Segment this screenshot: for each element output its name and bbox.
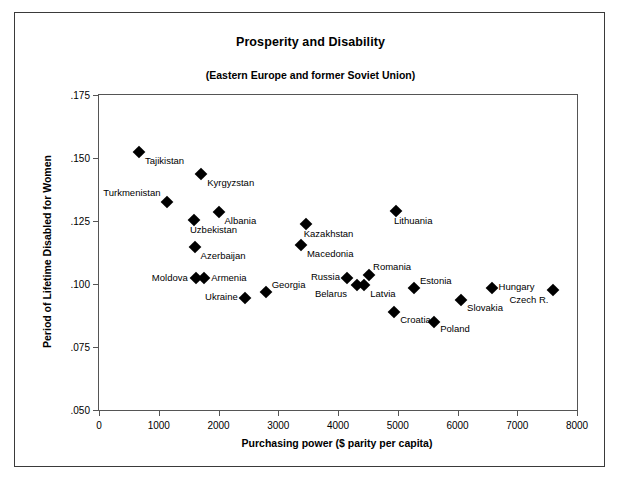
data-point-label: Lithuania xyxy=(394,216,433,226)
data-point[interactable] xyxy=(160,196,173,209)
x-tick-label: 2000 xyxy=(207,420,229,431)
y-tick-mark xyxy=(93,347,99,348)
data-point-label: Tajikistan xyxy=(145,156,184,166)
y-axis-label: Period of Lifetime Disabled for Women xyxy=(41,94,55,409)
x-tick-label: 1000 xyxy=(148,420,170,431)
chart-title: Prosperity and Disability xyxy=(15,35,606,49)
y-tick-label: .050 xyxy=(71,405,90,416)
y-tick-label: .100 xyxy=(71,279,90,290)
data-point-label: Hungary xyxy=(499,282,535,292)
x-tick-mark xyxy=(159,410,160,416)
plot-area: TajikistanKyrgyzstanTurkmenistanUzbekist… xyxy=(99,95,577,410)
data-point[interactable] xyxy=(198,271,211,284)
x-tick-label: 7000 xyxy=(506,420,528,431)
data-point[interactable] xyxy=(388,305,401,318)
data-point-label: Slovakia xyxy=(467,303,503,313)
data-point[interactable] xyxy=(259,285,272,298)
data-point-label: Croatia xyxy=(400,315,431,325)
chart-figure: Prosperity and Disability (Eastern Europ… xyxy=(14,12,605,467)
data-point[interactable] xyxy=(455,294,468,307)
data-point-label: Uzbekistan xyxy=(190,225,237,235)
data-point-label: Georgia xyxy=(272,280,306,290)
data-point-label: Kyrgyzstan xyxy=(207,178,254,188)
x-tick-label: 0 xyxy=(96,420,102,431)
data-point-label: Ukraine xyxy=(205,292,238,302)
x-tick-mark xyxy=(577,410,578,416)
data-point-label: Belarus xyxy=(315,289,347,299)
data-point-label: Russia xyxy=(311,272,340,282)
data-point-label: Estonia xyxy=(420,276,452,286)
data-point[interactable] xyxy=(195,168,208,181)
data-point-label: Poland xyxy=(440,324,470,334)
data-point[interactable] xyxy=(295,239,308,252)
x-tick-mark xyxy=(458,410,459,416)
x-tick-mark xyxy=(517,410,518,416)
data-point-label: Latvia xyxy=(370,289,395,299)
data-point-label: Moldova xyxy=(152,273,188,283)
y-tick-mark xyxy=(93,95,99,96)
x-tick-mark xyxy=(219,410,220,416)
data-point[interactable] xyxy=(341,271,354,284)
x-tick-label: 4000 xyxy=(327,420,349,431)
data-point[interactable] xyxy=(408,281,421,294)
x-tick-label: 5000 xyxy=(387,420,409,431)
data-point[interactable] xyxy=(238,291,251,304)
x-tick-label: 8000 xyxy=(566,420,588,431)
data-point[interactable] xyxy=(133,145,146,158)
x-tick-mark xyxy=(99,410,100,416)
y-tick-label: .175 xyxy=(71,90,90,101)
data-point[interactable] xyxy=(212,206,225,219)
data-point-label: Kazakhstan xyxy=(304,229,354,239)
x-tick-label: 3000 xyxy=(267,420,289,431)
data-point-label: Macedonia xyxy=(307,249,353,259)
data-point-label: Czech R. xyxy=(509,295,548,305)
x-tick-mark xyxy=(278,410,279,416)
y-tick-mark xyxy=(93,221,99,222)
y-tick-mark xyxy=(93,158,99,159)
chart-subtitle: (Eastern Europe and former Soviet Union) xyxy=(15,69,606,81)
y-tick-label: .075 xyxy=(71,342,90,353)
data-point-label: Romania xyxy=(373,262,411,272)
data-point[interactable] xyxy=(188,241,201,254)
data-point-label: Azerbaijan xyxy=(201,251,246,261)
data-point-label: Turkmenistan xyxy=(103,188,160,198)
x-axis-label: Purchasing power ($ parity per capita) xyxy=(98,437,576,449)
plot-frame: TajikistanKyrgyzstanTurkmenistanUzbekist… xyxy=(98,94,578,411)
y-tick-label: .125 xyxy=(71,216,90,227)
data-point-label: Armenia xyxy=(211,273,246,283)
y-tick-mark xyxy=(93,284,99,285)
data-point-label: Albania xyxy=(225,216,257,226)
x-tick-label: 6000 xyxy=(446,420,468,431)
x-tick-mark xyxy=(398,410,399,416)
y-tick-label: .150 xyxy=(71,153,90,164)
x-tick-mark xyxy=(338,410,339,416)
data-point[interactable] xyxy=(485,281,498,294)
